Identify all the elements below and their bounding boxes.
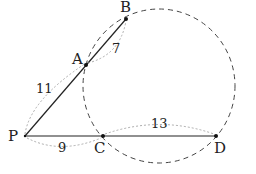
point-D: [214, 134, 218, 138]
label-P: P: [8, 129, 18, 144]
point-C: [101, 134, 105, 138]
label-C: C: [94, 141, 105, 156]
length-PA: 11: [36, 82, 53, 95]
length-CD: 13: [151, 117, 168, 130]
brace-PA: [25, 63, 86, 134]
label-A: A: [72, 52, 83, 67]
point-A: [84, 63, 88, 67]
point-B: [124, 17, 128, 21]
length-AB: 7: [112, 42, 120, 55]
circle: [83, 9, 235, 163]
length-PC: 9: [58, 141, 66, 154]
secant-PB: [25, 19, 126, 136]
point-P: [24, 135, 26, 137]
label-D: D: [214, 141, 226, 156]
label-B: B: [120, 0, 131, 15]
